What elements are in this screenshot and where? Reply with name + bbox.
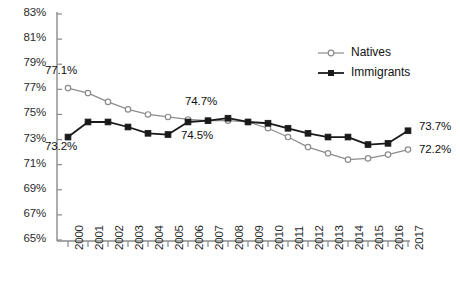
- data-point-marker: [305, 130, 311, 136]
- y-axis-tick-label: 75%: [2, 106, 46, 118]
- chart-container: 83%81%79%77%75%73%71%69%67%65% 200020012…: [0, 0, 460, 285]
- data-point-marker: [345, 134, 351, 140]
- data-point-label: 73.7%: [419, 120, 451, 132]
- y-axis-tick-label: 81%: [2, 31, 46, 43]
- data-point-marker: [205, 118, 211, 124]
- y-axis-tick-label: 67%: [2, 207, 46, 219]
- data-point-marker: [125, 124, 131, 130]
- data-point-marker: [105, 99, 110, 104]
- x-axis-tick-label: 2012: [313, 225, 325, 250]
- x-axis-tick-label: 2010: [273, 225, 285, 250]
- x-axis-tick-label: 2016: [393, 225, 405, 250]
- data-point-marker: [225, 115, 231, 121]
- x-axis-tick-label: 2000: [73, 225, 85, 250]
- data-point-marker: [145, 130, 151, 136]
- legend-label-immigrants[interactable]: Immigrants: [351, 65, 410, 79]
- series-immigrants: [65, 115, 411, 147]
- y-axis-tick-label: 69%: [2, 182, 46, 194]
- x-axis-tick-label: 2015: [373, 225, 385, 250]
- data-point-marker: [165, 132, 171, 138]
- data-point-marker: [305, 144, 310, 149]
- data-point-marker: [165, 114, 170, 119]
- data-point-marker: [85, 90, 90, 95]
- legend-marker-natives: [328, 50, 334, 56]
- legend-label-natives[interactable]: Natives: [351, 45, 391, 59]
- y-axis-tick-label: 65%: [2, 232, 46, 244]
- data-point-label: 74.5%: [181, 129, 213, 141]
- data-point-marker: [145, 112, 150, 117]
- data-point-label: 72.2%: [419, 143, 451, 155]
- data-point-marker: [285, 134, 290, 139]
- y-axis-ticks: [57, 14, 62, 240]
- data-point-marker: [185, 119, 191, 125]
- x-axis-tick-label: 2008: [233, 225, 245, 250]
- data-point-marker: [405, 147, 410, 152]
- data-point-marker: [365, 142, 371, 148]
- data-point-marker: [285, 125, 291, 131]
- x-axis-tick-label: 2007: [213, 225, 225, 250]
- x-axis-tick-label: 2002: [113, 225, 125, 250]
- series-line: [68, 118, 408, 144]
- data-point-marker: [405, 128, 411, 134]
- data-point-marker: [85, 119, 91, 125]
- data-point-label: 74.7%: [185, 95, 217, 107]
- x-axis-tick-label: 2014: [353, 225, 365, 250]
- data-point-marker: [385, 152, 390, 157]
- y-axis-tick-label: 73%: [2, 132, 46, 144]
- x-axis-tick-label: 2003: [133, 225, 145, 250]
- data-point-marker: [325, 134, 331, 140]
- data-point-marker: [65, 85, 70, 90]
- legend-marker-immigrants: [328, 70, 334, 76]
- x-axis-tick-label: 2001: [93, 225, 105, 250]
- x-axis-tick-label: 2004: [153, 225, 165, 250]
- x-axis-tick-label: 2005: [173, 225, 185, 250]
- chart-series-layer: [65, 85, 411, 162]
- legend-markers: [318, 50, 344, 76]
- x-axis-tick-label: 2006: [193, 225, 205, 250]
- data-point-marker: [125, 107, 130, 112]
- x-axis-tick-label: 2009: [253, 225, 265, 250]
- x-axis-tick-label: 2017: [413, 225, 425, 250]
- data-point-marker: [345, 157, 350, 162]
- data-point-label: 73.2%: [45, 140, 77, 152]
- data-point-marker: [265, 120, 271, 126]
- data-point-marker: [105, 119, 111, 125]
- y-axis-tick-label: 71%: [2, 157, 46, 169]
- y-axis-tick-label: 77%: [2, 81, 46, 93]
- data-point-marker: [365, 156, 370, 161]
- x-axis-tick-label: 2013: [333, 225, 345, 250]
- y-axis-tick-label: 83%: [2, 6, 46, 18]
- data-point-label: 77.1%: [45, 64, 77, 76]
- y-axis-tick-label: 79%: [2, 56, 46, 68]
- data-point-marker: [245, 119, 251, 125]
- data-point-marker: [325, 151, 330, 156]
- x-axis-tick-label: 2011: [293, 226, 305, 250]
- data-point-marker: [385, 140, 391, 146]
